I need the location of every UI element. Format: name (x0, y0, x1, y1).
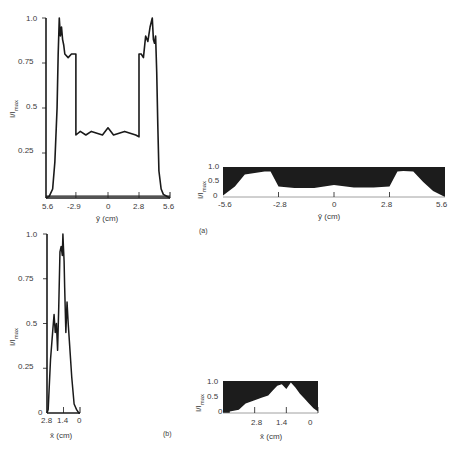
profile-line (47, 234, 80, 413)
profile-line (46, 18, 170, 198)
plot-graphics (0, 0, 457, 450)
